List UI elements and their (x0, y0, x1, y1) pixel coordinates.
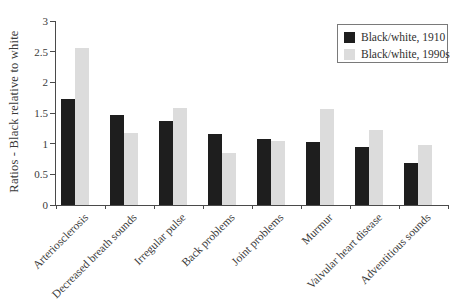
bar-1910-murmur (306, 142, 320, 205)
legend-swatch-icon (344, 49, 355, 60)
legend-label: Black/white, 1910 (361, 31, 445, 43)
bar-1990s-decreased-breath-sounds (124, 133, 138, 205)
legend-item-black-white-1990s: Black/white, 1990s (344, 46, 447, 62)
y-tick-label: 0 (16, 200, 48, 211)
legend-label: Black/white, 1990s (361, 48, 450, 60)
category-label-murmur: Murmur (299, 211, 335, 247)
legend-item-black-white-1910: Black/white, 1910 (344, 29, 447, 45)
bar-1990s-arteriosclerosis (75, 48, 89, 205)
x-tick-mark (252, 205, 253, 209)
x-tick-mark (56, 205, 57, 209)
bar-1990s-murmur (320, 109, 334, 205)
bar-1990s-adventitious-sounds (418, 145, 432, 205)
bar-1910-decreased-breath-sounds (110, 115, 124, 205)
x-tick-mark (399, 205, 400, 209)
y-tick-mark (50, 82, 55, 83)
y-tick-mark (50, 21, 55, 22)
y-tick-mark (50, 51, 55, 52)
bar-1910-irregular-pulse (159, 121, 173, 205)
x-tick-mark (448, 205, 449, 209)
y-tick-mark (50, 205, 55, 206)
bar-1910-back-problems (208, 134, 222, 205)
y-tick-label: 2.5 (16, 47, 48, 58)
y-tick-label: 1.5 (16, 108, 48, 119)
legend: Black/white, 1910Black/white, 1990s (337, 24, 448, 63)
x-tick-mark (350, 205, 351, 209)
bar-chart-figure: Ratios - Black relative to white 00.511.… (0, 0, 453, 307)
category-label-decreased-breath-sounds: Decreased breath sounds (50, 211, 139, 300)
x-tick-mark (154, 205, 155, 209)
x-tick-mark (203, 205, 204, 209)
y-tick-mark (50, 143, 55, 144)
category-label-joint-problems: Joint problems (229, 211, 286, 268)
bar-1990s-irregular-pulse (173, 108, 187, 205)
bar-1990s-back-problems (222, 153, 236, 205)
category-label-back-problems: Back problems (179, 211, 236, 268)
x-tick-mark (301, 205, 302, 209)
x-tick-mark (105, 205, 106, 209)
y-tick-mark (50, 113, 55, 114)
bar-1910-adventitious-sounds (404, 163, 418, 205)
bar-1910-valvular-heart-disease (355, 147, 369, 205)
y-tick-label: 0.5 (16, 169, 48, 180)
bar-1910-joint-problems (257, 139, 271, 205)
bar-1990s-joint-problems (271, 141, 285, 205)
y-tick-label: 3 (16, 16, 48, 27)
legend-swatch-icon (344, 32, 355, 43)
bar-1910-arteriosclerosis (61, 99, 75, 205)
y-tick-label: 2 (16, 77, 48, 88)
bar-1990s-valvular-heart-disease (369, 130, 383, 205)
y-tick-label: 1 (16, 139, 48, 150)
y-tick-mark (50, 174, 55, 175)
